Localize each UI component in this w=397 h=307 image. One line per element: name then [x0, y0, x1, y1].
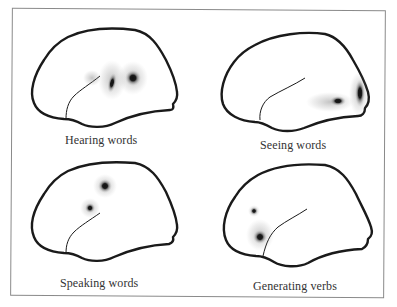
activation-spots — [83, 60, 148, 100]
panel-label: Seeing words — [260, 138, 326, 153]
activation-spots — [246, 205, 274, 251]
panel-speaking-words: Speaking words — [30, 155, 200, 307]
panel-generating-verbs: Generating verbs — [220, 155, 397, 307]
panel-seeing-words: Seeing words — [220, 20, 397, 160]
panel-hearing-words: Hearing words — [30, 20, 200, 150]
brain-outline-icon — [30, 20, 200, 150]
panel-label: Hearing words — [65, 133, 137, 148]
activation-spots — [306, 72, 369, 116]
panel-label: Speaking words — [60, 276, 138, 291]
activation-spots — [80, 174, 117, 218]
panel-label: Generating verbs — [253, 279, 337, 294]
